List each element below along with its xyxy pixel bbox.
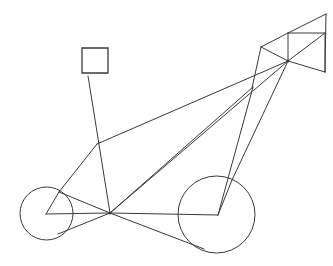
truss-hub-marker <box>287 60 290 63</box>
figure-canvas: Wireframe line drawing Black-on-white ge… <box>0 0 333 266</box>
wireframe-line-drawing: Wireframe line drawing Black-on-white ge… <box>0 0 333 266</box>
background-rect <box>0 0 333 266</box>
central-hub-marker <box>108 211 111 214</box>
